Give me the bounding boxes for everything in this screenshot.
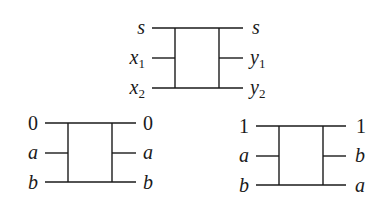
input-label-a: a: [239, 144, 249, 166]
gate-general: s x1 x2 s y1 y2: [129, 16, 266, 101]
input-label-x2: x2: [129, 76, 145, 101]
output-label-0: 0: [143, 112, 153, 134]
output-label-y1: y1: [248, 46, 265, 71]
output-label-b: b: [143, 171, 153, 193]
output-label-b: b: [355, 144, 365, 166]
gate-control-one: 1 a b 1 b a: [239, 115, 366, 196]
input-label-1: 1: [239, 115, 249, 137]
input-label-b: b: [239, 174, 249, 196]
input-label-x1: x1: [129, 46, 145, 71]
output-label-s: s: [252, 16, 260, 38]
gate-control-zero: 0 a b 0 a b: [28, 112, 153, 193]
input-label-s: s: [137, 16, 145, 38]
output-label-1: 1: [356, 115, 366, 137]
input-label-a: a: [28, 141, 38, 163]
input-label-0: 0: [28, 112, 38, 134]
output-label-y2: y2: [248, 76, 265, 101]
input-label-b: b: [28, 171, 38, 193]
output-label-a: a: [355, 174, 365, 196]
fredkin-gate-diagram: s x1 x2 s y1 y2 0 a b 0 a b 1 a b 1 b a: [0, 0, 387, 206]
output-label-a: a: [143, 141, 153, 163]
